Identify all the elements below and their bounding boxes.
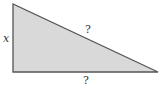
right-triangle (13, 4, 158, 72)
vertical-side-label: x (3, 32, 10, 45)
base-label: ? (83, 74, 89, 87)
triangle-diagram: x ? ? (0, 0, 166, 91)
hypotenuse-label: ? (85, 23, 91, 36)
